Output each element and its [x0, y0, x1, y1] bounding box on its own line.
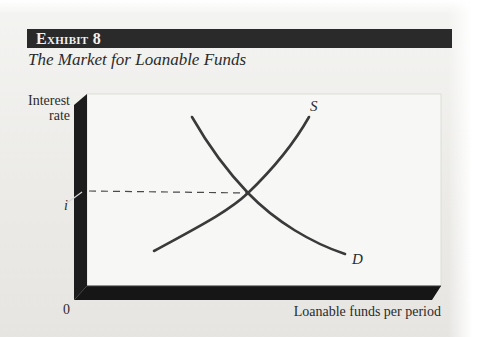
- demand-label: D: [351, 251, 363, 267]
- plot-area: [87, 94, 441, 286]
- y-axis-label-line1: Interest: [28, 93, 70, 108]
- equilibrium-rate-label: i: [64, 198, 68, 213]
- y-axis-label-line2: rate: [49, 108, 70, 123]
- origin-label: 0: [63, 302, 70, 317]
- supply-label: S: [310, 98, 318, 114]
- x-axis-bar: [74, 286, 441, 300]
- loanable-funds-chart: S D Interest rate i 0 Loanable funds per…: [0, 0, 478, 337]
- x-axis-label: Loanable funds per period: [294, 304, 441, 319]
